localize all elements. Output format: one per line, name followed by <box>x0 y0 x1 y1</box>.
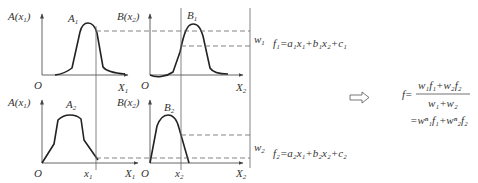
x-tick-label: x2 <box>174 167 184 181</box>
formula-numerator: w₁f₁+w₂f₂ <box>418 79 462 91</box>
curve-label: A2 <box>65 98 77 112</box>
y-label: A(x1) <box>7 10 31 24</box>
origin-label: O <box>34 79 42 91</box>
x-label: X2 <box>235 81 247 95</box>
y-label: B(x2) <box>117 96 140 110</box>
membership-curve-b2 <box>150 115 189 163</box>
rule-f2-equation: f₂=a₂x₁+b₂x₂+c₂ <box>273 147 347 159</box>
weight-w1-label: w1 <box>254 33 265 47</box>
x-tick-label: x1 <box>83 167 92 181</box>
rule-f1-equation: f₁=a₁x₁+b₁x₂+c₁ <box>273 37 347 49</box>
y-label: A(x1) <box>7 96 31 110</box>
weight-w2-label: w2 <box>254 141 265 155</box>
x-label: X2 <box>235 167 247 181</box>
fuzzy-inference-diagram: A(x1) A1 O X1 B(x2) B1 O X2 A(x1) A2 O x… <box>0 0 478 183</box>
origin-label: O <box>34 167 42 179</box>
weighted-average-formula: f= w₁f₁+w₂f₂ w₁+w₂ =wⁿ₁f₁+wⁿ₂f₂ <box>402 79 470 126</box>
origin-label: O <box>141 167 149 179</box>
panel-top-right: B(x2) B1 O X2 <box>117 9 247 95</box>
formula-normalized: =wⁿ₁f₁+wⁿ₂f₂ <box>410 114 468 126</box>
curve-label: B2 <box>164 101 175 115</box>
panel-bottom-right: B(x2) B2 O x2 X2 <box>117 96 247 181</box>
x-label: X1 <box>124 167 135 181</box>
curve-label: B1 <box>187 9 197 23</box>
panel-bottom-left: A(x1) A2 O x1 X1 <box>7 96 138 181</box>
y-label: B(x2) <box>117 10 140 24</box>
implies-arrow-icon <box>350 92 369 103</box>
x-label: X1 <box>117 81 128 95</box>
membership-curve-b1 <box>150 24 228 77</box>
origin-label: O <box>141 79 149 91</box>
formula-denominator: w₁+w₂ <box>428 97 458 109</box>
curve-label: A1 <box>67 12 78 26</box>
panel-top-left: A(x1) A1 O X1 <box>7 10 128 95</box>
membership-curve-a2 <box>42 115 98 163</box>
formula-lhs: f= <box>402 88 412 100</box>
